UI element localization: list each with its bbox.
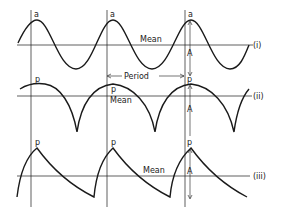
period-label: Period — [124, 72, 149, 81]
waveform-i-sinusoid — [18, 20, 249, 69]
waveform-ii-rectified — [20, 84, 249, 132]
row-label-iii: (iii) — [253, 172, 266, 181]
amplitude-label-i: A — [187, 49, 193, 58]
mean-label-iii: Mean — [143, 166, 165, 175]
row-label-ii: (ii) — [253, 92, 264, 101]
peak-label-i-1: a — [34, 10, 39, 19]
waveform-diagram: a a a Mean A (i) Period p p p Mean A (ii… — [0, 0, 281, 214]
waveform-iii-sawtooth — [17, 148, 247, 197]
peak-label-iii-2: p — [111, 138, 116, 147]
peak-label-iii-3: p — [187, 138, 192, 147]
peak-label-iii-1: p — [35, 138, 40, 147]
peak-label-ii-1: p — [35, 75, 40, 84]
peak-label-i-3: a — [188, 10, 193, 19]
peak-label-ii-3: p — [187, 75, 192, 84]
amplitude-label-iii: A — [187, 167, 193, 176]
mean-label-i: Mean — [140, 35, 162, 44]
row-label-i: (i) — [253, 41, 261, 50]
amplitude-label-ii: A — [187, 105, 193, 114]
mean-label-ii: Mean — [110, 96, 132, 105]
peak-label-i-2: a — [110, 10, 115, 19]
peak-label-ii-2: p — [111, 85, 116, 94]
